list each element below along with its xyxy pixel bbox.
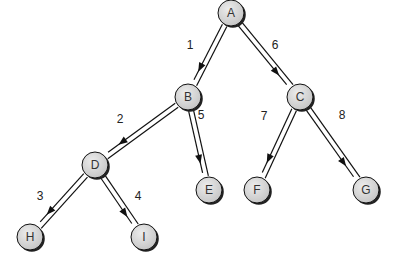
node-F: F bbox=[244, 177, 272, 205]
node-I: I bbox=[131, 224, 159, 252]
edge-label: 2 bbox=[117, 112, 124, 126]
edge-D-H bbox=[40, 174, 87, 229]
node-label: B bbox=[184, 90, 192, 104]
node-A: A bbox=[218, 0, 246, 28]
node-label: C bbox=[296, 90, 305, 104]
node-label: E bbox=[205, 183, 213, 197]
edge-label: 4 bbox=[135, 189, 142, 203]
node-label: D bbox=[91, 158, 100, 172]
edge-label: 6 bbox=[272, 38, 279, 52]
node-E: E bbox=[196, 177, 224, 205]
edge-C-G bbox=[306, 107, 360, 177]
edge-label: 8 bbox=[339, 108, 346, 122]
arrowhead-icon bbox=[119, 137, 128, 145]
edge-label: 1 bbox=[187, 38, 194, 52]
node-D: D bbox=[82, 152, 110, 180]
nodes-group: ABCDEFGHI bbox=[17, 0, 381, 252]
node-label: I bbox=[142, 230, 145, 244]
node-C: C bbox=[287, 84, 315, 112]
edge-label: 5 bbox=[198, 108, 205, 122]
edge-A-B bbox=[194, 24, 227, 85]
arrowhead-icon bbox=[338, 157, 346, 166]
arrowhead-icon bbox=[119, 208, 127, 217]
edge-D-I bbox=[101, 175, 138, 224]
node-label: G bbox=[361, 183, 370, 197]
edge-label: 3 bbox=[37, 189, 44, 203]
node-G: G bbox=[353, 177, 381, 205]
edge-label: 7 bbox=[261, 109, 268, 123]
arrowhead-icon bbox=[195, 154, 202, 164]
edge-C-F bbox=[262, 109, 296, 179]
edge-A-C bbox=[238, 22, 293, 84]
node-H: H bbox=[17, 224, 45, 252]
node-label: A bbox=[227, 6, 235, 20]
node-label: F bbox=[253, 183, 260, 197]
tree-diagram: ABCDEFGHI 12345678 bbox=[0, 0, 395, 266]
node-label: H bbox=[26, 230, 35, 244]
